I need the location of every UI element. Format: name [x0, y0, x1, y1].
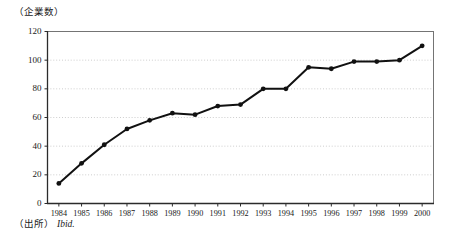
- x-tick-label: 1988: [141, 209, 157, 218]
- x-tick-label: 1989: [164, 209, 180, 218]
- series-markers-group: [56, 43, 424, 185]
- line-chart-plot: 020406080100120 198419851986198719881989…: [0, 0, 451, 238]
- y-tick-label: 0: [37, 198, 42, 208]
- x-tick-label: 1998: [369, 209, 385, 218]
- x-tick-label: 1987: [119, 209, 135, 218]
- data-point-marker: [374, 59, 379, 64]
- data-point-marker: [284, 86, 289, 91]
- series-line-company-count: [59, 46, 422, 184]
- x-tick-label: 1999: [391, 209, 407, 218]
- x-tick-label: 1993: [255, 209, 271, 218]
- x-tick-label: 1995: [300, 209, 316, 218]
- data-point-marker: [352, 59, 357, 64]
- y-axis-ticks-group: 020406080100120: [28, 26, 48, 208]
- y-tick-label: 120: [28, 26, 42, 36]
- data-point-marker: [261, 86, 266, 91]
- x-tick-label: 1992: [232, 209, 248, 218]
- data-point-marker: [79, 161, 84, 166]
- data-point-marker: [397, 58, 402, 63]
- data-point-marker: [238, 102, 243, 107]
- x-tick-label: 1984: [51, 209, 67, 218]
- y-tick-label: 20: [33, 169, 43, 179]
- x-tick-label: 1985: [73, 209, 89, 218]
- source-value: Ibid.: [57, 219, 75, 229]
- data-point-marker: [420, 43, 425, 48]
- x-tick-label: 2000: [414, 209, 430, 218]
- y-tick-label: 40: [33, 141, 43, 151]
- x-axis-ticks-group: 1984198519861987198819891990199119921993…: [51, 204, 431, 219]
- data-point-marker: [329, 66, 334, 71]
- data-point-marker: [125, 127, 130, 132]
- y-tick-label: 60: [33, 112, 43, 122]
- x-tick-label: 1996: [323, 209, 339, 218]
- y-tick-label: 80: [33, 83, 43, 93]
- y-tick-label: 100: [28, 55, 42, 65]
- data-point-marker: [215, 104, 220, 109]
- data-point-marker: [306, 65, 311, 70]
- data-point-marker: [147, 118, 152, 123]
- source-note: （出所）Ibid.: [14, 218, 75, 230]
- data-point-marker: [56, 181, 61, 186]
- source-label: （出所）: [14, 219, 54, 229]
- x-tick-label: 1997: [346, 209, 362, 218]
- chart-figure: （企業数） 020406080100120 198419851986198719…: [0, 0, 451, 238]
- x-tick-label: 1991: [210, 209, 226, 218]
- x-tick-label: 1994: [278, 209, 294, 218]
- x-tick-label: 1986: [96, 209, 112, 218]
- data-point-marker: [193, 112, 198, 117]
- data-point-marker: [170, 111, 175, 116]
- data-point-marker: [102, 142, 107, 147]
- gridlines-group: [48, 60, 434, 175]
- x-tick-label: 1990: [187, 209, 203, 218]
